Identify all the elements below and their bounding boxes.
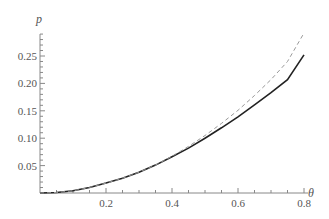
x-axis-label: θ [308, 186, 314, 200]
x-tick-label: 0.4 [165, 197, 179, 209]
series-dashed [40, 33, 304, 193]
y-tick-label: 0.15 [18, 105, 38, 117]
y-tick-label: 0.25 [18, 50, 38, 62]
ticks [40, 34, 304, 193]
y-tick-label: 0.20 [18, 77, 38, 89]
tick-labels: 0.20.40.60.80.050.100.150.200.25 [18, 50, 312, 209]
line-chart: 0.20.40.60.80.050.100.150.200.25 θ p [0, 0, 329, 219]
x-tick-label: 0.2 [99, 197, 113, 209]
series-solid [40, 55, 304, 193]
y-tick-label: 0.10 [18, 132, 38, 144]
axes [40, 34, 308, 193]
y-axis-label: p [35, 12, 42, 26]
x-tick-label: 0.6 [231, 197, 245, 209]
series [40, 33, 304, 193]
y-tick-label: 0.05 [18, 160, 38, 172]
